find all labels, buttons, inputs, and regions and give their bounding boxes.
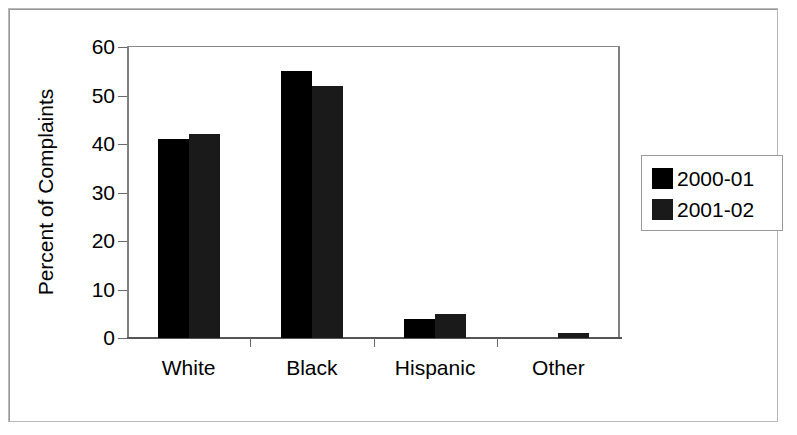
y-axis-tick-label: 20: [55, 230, 115, 251]
legend-item-label: 2000-01: [677, 168, 754, 189]
y-axis-tick-mark: [118, 96, 127, 97]
legend-item: 2001-02: [652, 194, 782, 225]
y-axis-tick-mark: [118, 193, 127, 194]
y-axis-tick-mark: [118, 241, 127, 242]
legend-item-label: 2001-02: [677, 199, 754, 220]
legend-swatch-icon: [652, 168, 673, 189]
bar-chart: Percent of Complaints 0102030405060 Whit…: [0, 0, 797, 435]
y-axis-tick-label: 30: [55, 182, 115, 203]
chart-page: Percent of Complaints 0102030405060 Whit…: [0, 0, 797, 435]
y-axis-tick-mark: [118, 290, 127, 291]
chart-legend: 2000-01 2001-02: [641, 155, 783, 231]
bar: [158, 139, 189, 338]
y-axis-tick-label: 60: [55, 36, 115, 57]
bar: [281, 71, 312, 338]
bar: [189, 134, 220, 338]
bar-series-container: [127, 47, 620, 338]
bar: [404, 319, 435, 338]
y-axis-tick-label: 10: [55, 279, 115, 300]
x-axis-tick-mark: [250, 338, 251, 347]
x-axis-category-label: Other: [478, 356, 638, 380]
bar: [435, 314, 466, 338]
legend-swatch-icon: [652, 199, 673, 220]
y-axis-tick-mark: [118, 47, 127, 48]
bar: [312, 86, 343, 338]
bar: [558, 333, 589, 338]
y-axis-tick-mark: [118, 144, 127, 145]
x-axis-tick-mark: [374, 338, 375, 347]
y-axis-tick-label: 40: [55, 133, 115, 154]
x-axis-tick-mark: [497, 338, 498, 347]
y-axis-tick-label: 50: [55, 85, 115, 106]
y-axis-tick-label: 0: [55, 327, 115, 348]
y-axis-tick-mark: [118, 338, 127, 339]
legend-item: 2000-01: [652, 163, 782, 194]
